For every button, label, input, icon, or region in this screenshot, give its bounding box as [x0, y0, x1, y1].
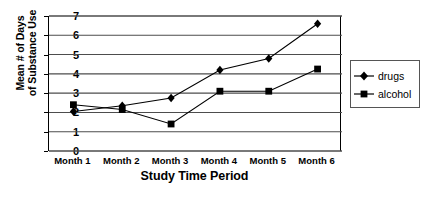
y-tick-mark — [44, 151, 48, 152]
y-axis-title-line1: Mean # of Days — [14, 15, 26, 90]
y-axis-title: Mean # of Days of Substance Use — [12, 0, 40, 127]
data-series-layer — [49, 16, 342, 151]
y-axis-title-line2: of Substance Use — [26, 10, 38, 97]
chart-figure: Mean # of Days of Substance Use 01234567… — [0, 0, 423, 197]
chart-legend: drugs alcohol — [350, 60, 420, 108]
legend-item-alcohol[interactable]: alcohol — [353, 85, 419, 103]
plot-area — [48, 16, 341, 151]
x-axis-title: Study Time Period — [48, 169, 341, 183]
diamond-marker-icon — [353, 69, 375, 83]
x-tick-label: Month 6 — [287, 155, 347, 166]
square-marker-icon — [353, 87, 375, 101]
legend-label-alcohol: alcohol — [378, 88, 411, 100]
legend-label-drugs: drugs — [378, 70, 404, 82]
legend-item-drugs[interactable]: drugs — [353, 67, 419, 85]
